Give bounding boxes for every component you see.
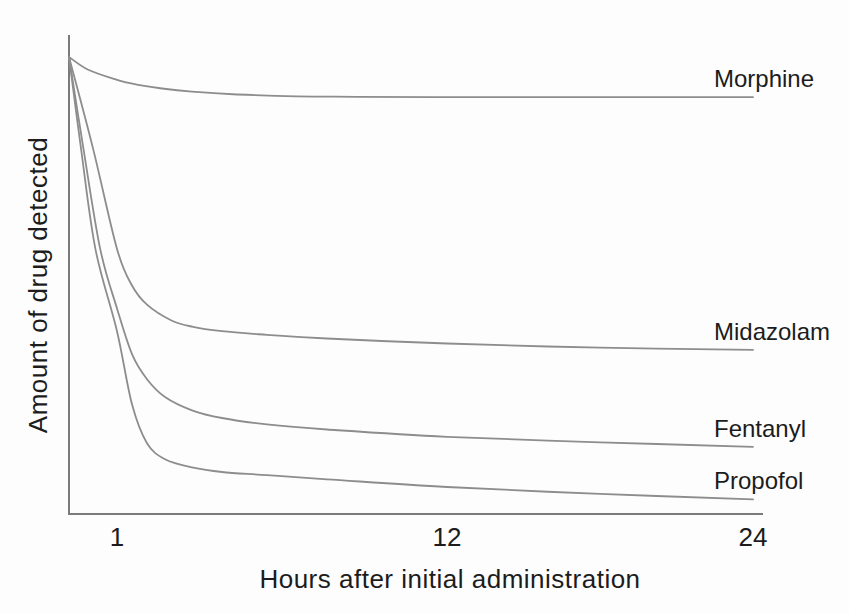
y-axis-title: Amount of drug detected bbox=[23, 137, 54, 433]
x-axis-title: Hours after initial administration bbox=[52, 564, 848, 595]
x-tick-label-24: 24 bbox=[739, 522, 768, 552]
curve-midazolam bbox=[69, 57, 753, 350]
curve-morphine bbox=[69, 57, 753, 97]
x-tick-label-12: 12 bbox=[433, 522, 462, 552]
series-label-midazolam: Midazolam bbox=[714, 318, 830, 345]
series-label-morphine: Morphine bbox=[714, 65, 814, 92]
series-label-fentanyl: Fentanyl bbox=[714, 415, 806, 442]
drug-detection-chart: 11224MorphineMidazolamFentanylPropofol A… bbox=[0, 0, 849, 613]
curve-propofol bbox=[69, 57, 753, 499]
curve-fentanyl bbox=[69, 57, 753, 447]
x-tick-label-1: 1 bbox=[110, 522, 124, 552]
chart-canvas: 11224MorphineMidazolamFentanylPropofol bbox=[0, 0, 849, 613]
series-label-propofol: Propofol bbox=[714, 467, 803, 494]
